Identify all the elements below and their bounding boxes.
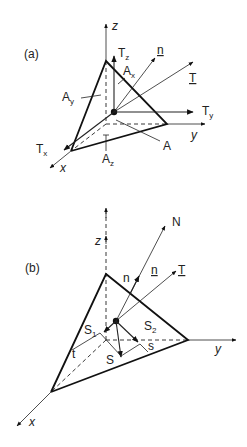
traction-vector-t-b-label: T [178, 263, 186, 277]
x-axis-label-b: x [28, 415, 36, 429]
t-axis-label: t [72, 347, 76, 361]
area-a-label: A [163, 139, 171, 153]
oblique-face-b [51, 274, 188, 392]
panel-a-label: (a) [24, 47, 39, 61]
panel-a: (a) z y x Tz n T Ty Tx Ax [24, 19, 213, 175]
shear-S-label: S [106, 353, 114, 367]
traction-vector-t-a-label: T [189, 71, 197, 85]
normal-vector-n-b [130, 276, 139, 294]
shear-vector-S2 [116, 321, 138, 342]
shear-S2-label: S2 [144, 319, 157, 335]
unit-normal-n-label: n [151, 263, 158, 277]
area-az-label: Az [102, 152, 114, 168]
s-axis-label: s [148, 339, 154, 353]
normal-axis-N-label: N [172, 215, 181, 229]
area-ay-label: Ay [62, 90, 74, 106]
vector-tz-label: Tz [118, 46, 129, 62]
normal-vector-n-a [114, 58, 155, 112]
normal-component-n-label: n [123, 271, 130, 285]
y-axis-label-a: y [190, 128, 198, 142]
vector-ty-label: Ty [202, 104, 213, 120]
area-ax-leader [118, 78, 125, 84]
z-axis-label-b: z [94, 234, 101, 248]
vector-tx [64, 112, 114, 150]
area-a-leader [116, 120, 160, 141]
z-axis-label-a: z [111, 19, 118, 33]
normal-vector-n-a-label: n [157, 43, 164, 57]
s-direction-line [140, 344, 148, 352]
shear-S1-label: S1 [84, 323, 97, 339]
panel-b: (b) z y x N n n T [17, 208, 236, 429]
panel-b-label: (b) [25, 261, 40, 275]
vector-tx-label: Tx [36, 142, 47, 158]
x-axis-hidden-b [51, 340, 106, 392]
x-axis-label-a: x [59, 161, 67, 175]
y-axis-label-b: y [214, 342, 222, 356]
area-ax-label: Ax [123, 64, 135, 80]
stress-tetrahedron-figure: (a) z y x Tz n T Ty Tx Ax [0, 0, 247, 447]
